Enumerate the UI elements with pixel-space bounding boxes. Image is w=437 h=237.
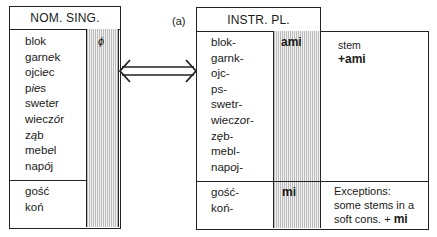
- left-exception-words: gość koń: [25, 184, 49, 215]
- word: wieczor-: [211, 113, 254, 129]
- left-divider: [9, 180, 87, 181]
- right-regular-words: blok- garnk- ojc- ps- swetr- wieczor- zę…: [211, 35, 254, 175]
- word: napój: [25, 159, 64, 175]
- right-divider: [196, 181, 429, 182]
- word: ząb: [25, 128, 64, 144]
- word: swetr-: [211, 97, 254, 113]
- left-regular-words: blok garnek ojciec pies sweter wieczór z…: [25, 34, 64, 174]
- word: sweter: [25, 96, 64, 112]
- left-header: NOM. SING.: [9, 6, 121, 30]
- word: wieczór: [25, 112, 64, 128]
- word: garnk-: [211, 51, 254, 67]
- note-line: some stems in a: [334, 198, 414, 212]
- word: zęb-: [211, 129, 254, 145]
- word: blok-: [211, 35, 254, 51]
- word: napoj-: [211, 160, 254, 176]
- nom-sing-label: NOM. SING.: [30, 11, 99, 25]
- word: pies: [25, 81, 64, 97]
- right-header: INSTR. PL.: [196, 7, 321, 32]
- note-stem: stem: [338, 38, 366, 52]
- right-exception-words: gość- koń-: [211, 185, 239, 216]
- word: blok: [25, 34, 64, 50]
- double-arrow-icon: [118, 58, 198, 84]
- ending-ami: ami: [281, 35, 302, 49]
- word: mebl-: [211, 144, 254, 160]
- word: ojc-: [211, 66, 254, 82]
- word: koń: [25, 200, 49, 216]
- zero-ending: ϕ: [98, 35, 104, 47]
- word: garnek: [25, 50, 64, 66]
- left-ending-column: [86, 29, 119, 227]
- word: mebel: [25, 143, 64, 159]
- right-ending-column: [273, 31, 321, 228]
- exception-note: Exceptions: some stems in a soft cons. +…: [334, 184, 414, 226]
- word: gość-: [211, 185, 239, 201]
- word: ojciec: [25, 65, 64, 81]
- word: gość: [25, 184, 49, 200]
- note-line: Exceptions:: [334, 184, 414, 198]
- instr-pl-label: INSTR. PL.: [227, 13, 290, 27]
- note-line: soft cons. + mi: [334, 212, 414, 226]
- regular-note: stem +ami: [338, 38, 366, 66]
- note-plus-ami: +ami: [338, 52, 366, 66]
- ending-mi: mi: [282, 185, 296, 199]
- word: ps-: [211, 82, 254, 98]
- figure-label: (a): [172, 15, 185, 27]
- word: koń-: [211, 201, 239, 217]
